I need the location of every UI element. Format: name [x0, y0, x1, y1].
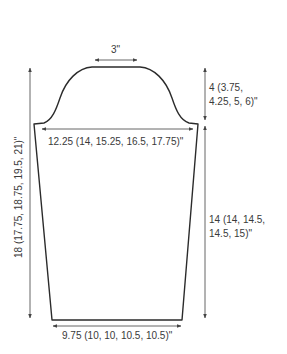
sleeve-length-label-line1: 14 (14, 14.5, — [209, 214, 265, 226]
total-length-label: 18 (17.75, 18.75, 19.5, 21)" — [13, 137, 25, 258]
cap-height-label-line2: 4.25, 5, 6)" — [209, 96, 258, 108]
cap-top-width-label: 3" — [111, 44, 120, 56]
sleeve-length-label-line2: 14.5, 15)" — [209, 228, 252, 240]
sleeve-outline — [34, 67, 198, 320]
sleeve-schematic — [0, 0, 287, 354]
upper-arm-width-label: 12.25 (14, 15.25, 16.5, 17.75)" — [48, 136, 183, 148]
cap-height-label-line1: 4 (3.75, — [209, 82, 243, 94]
cuff-width-label: 9.75 (10, 10, 10.5, 10.5)" — [62, 330, 172, 342]
